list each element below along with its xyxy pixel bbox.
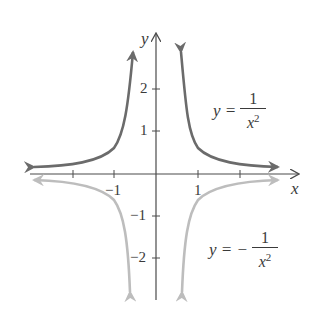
- y-tick-label-neg1: −1: [130, 208, 146, 223]
- y-tick-label-pos2: 2: [140, 81, 148, 96]
- x-tick-label-neg1: −1: [105, 183, 121, 198]
- equation-upper-lhs: y =: [213, 101, 236, 121]
- equation-lower-numerator: 1: [259, 230, 271, 246]
- equation-lower-denominator: x2: [259, 249, 272, 270]
- equation-upper-fraction: 1 x2: [240, 91, 266, 131]
- equation-upper-numerator: 1: [247, 91, 259, 107]
- fraction-bar: [252, 247, 278, 248]
- y-tick-label-neg2: −2: [130, 250, 146, 265]
- curve-inverse-square-left: [34, 52, 133, 167]
- equation-lower: y = − 1 x2: [209, 230, 278, 270]
- y-axis-label: y: [141, 30, 149, 47]
- equation-upper-denominator: x2: [247, 110, 260, 131]
- y-tick-label-pos1: 1: [140, 123, 148, 138]
- equation-lower-lhs: y = −: [209, 240, 248, 260]
- x-tick-label-pos1: 1: [194, 183, 202, 198]
- fraction-bar: [240, 108, 266, 109]
- equation-lower-fraction: 1 x2: [252, 230, 278, 270]
- equation-upper: y = 1 x2: [213, 91, 266, 131]
- x-axis-label: x: [291, 180, 299, 197]
